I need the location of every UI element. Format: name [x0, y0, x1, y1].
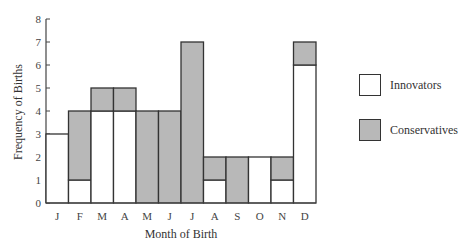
legend-label: Innovators — [390, 78, 441, 93]
x-tick-label: O — [256, 210, 264, 222]
bar-segment-innovators — [249, 157, 272, 203]
x-tick-label: F — [77, 210, 83, 222]
x-tick-label: N — [278, 210, 286, 222]
x-tick-label: J — [190, 210, 195, 222]
x-tick-label: M — [97, 210, 107, 222]
x-axis: JFMAMJJASOND — [46, 203, 316, 222]
y-tick-label: 1 — [36, 174, 42, 186]
legend-swatch-innovators — [359, 74, 381, 96]
legend-label: Conservatives — [390, 123, 458, 138]
legend-item-innovators: Innovators — [359, 74, 441, 96]
y-tick-label: 6 — [36, 59, 42, 71]
bar-segment-conservatives — [204, 157, 227, 180]
bar-segment-conservatives — [271, 157, 294, 180]
y-tick-label: 8 — [36, 13, 42, 25]
x-tick-label: J — [168, 210, 173, 222]
bar-segment-conservatives — [69, 111, 92, 180]
bar-segment-conservatives — [181, 42, 204, 203]
bar-segment-innovators — [271, 180, 294, 203]
bars — [46, 42, 316, 203]
y-tick-label: 5 — [36, 82, 42, 94]
x-tick-label: D — [301, 210, 309, 222]
y-tick-label: 3 — [36, 128, 42, 140]
bar-segment-conservatives — [226, 157, 249, 203]
x-tick-label: A — [121, 210, 129, 222]
x-tick-label: A — [211, 210, 219, 222]
x-tick-label: J — [55, 210, 60, 222]
bar-segment-innovators — [294, 65, 317, 203]
y-tick-label: 2 — [36, 151, 42, 163]
bar-segment-conservatives — [136, 111, 159, 203]
bar-segment-conservatives — [159, 111, 182, 203]
y-tick-label: 7 — [36, 36, 42, 48]
bar-segment-innovators — [204, 180, 227, 203]
y-axis-title: Frequency of Births — [11, 64, 25, 160]
x-tick-label: S — [234, 210, 240, 222]
y-tick-label: 0 — [36, 197, 42, 209]
bar-segment-innovators — [91, 111, 114, 203]
bar-segment-innovators — [69, 180, 92, 203]
y-tick-label: 4 — [36, 105, 42, 117]
bar-segment-innovators — [46, 134, 69, 203]
x-axis-title: Month of Birth — [145, 227, 218, 241]
bar-segment-conservatives — [91, 88, 114, 111]
bar-segment-conservatives — [114, 88, 137, 111]
bar-segment-conservatives — [294, 42, 317, 65]
legend-item-conservatives: Conservatives — [359, 119, 458, 141]
legend-swatch-conservatives — [359, 119, 381, 141]
bar-segment-innovators — [114, 111, 137, 203]
x-tick-label: M — [142, 210, 152, 222]
